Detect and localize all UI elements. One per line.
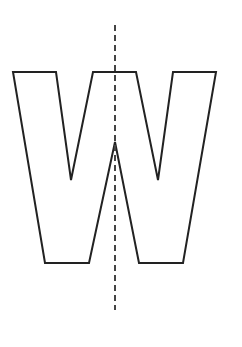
w-symmetry-diagram xyxy=(0,0,242,347)
